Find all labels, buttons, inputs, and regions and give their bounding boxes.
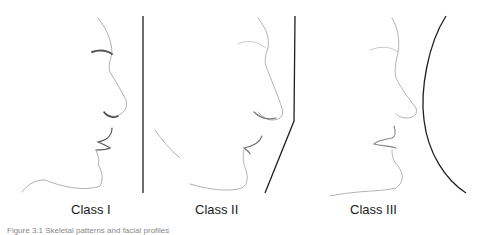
profile-class-3-sketch — [330, 18, 417, 196]
class-3-reference-line — [423, 16, 466, 193]
profile-class-1-sketch — [22, 18, 127, 192]
figure-caption: Figure 3.1 Skeletal patterns and facial … — [7, 226, 169, 235]
profile-class-2-sketch — [155, 18, 283, 190]
class-3-label: Class III — [350, 202, 397, 217]
class-2-label: Class II — [195, 202, 238, 217]
class-1-label: Class I — [71, 202, 111, 217]
profiles-illustration — [0, 0, 479, 235]
class-2-reference-line — [265, 16, 295, 193]
